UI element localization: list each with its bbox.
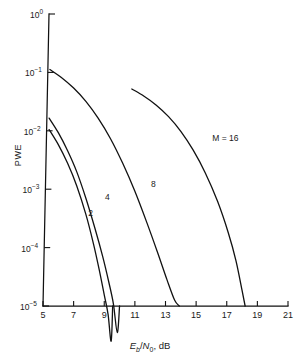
- x-tick-label: 13: [156, 310, 176, 320]
- data-curves: [49, 70, 245, 342]
- x-axis-title: Eb/N0, dB: [0, 340, 300, 353]
- curve-m-8: [50, 70, 179, 306]
- axes: [43, 14, 288, 306]
- x-axis-title-eb: Eb: [130, 340, 140, 351]
- pwe-vs-ebno-semilog-chart: [0, 0, 300, 360]
- y-tick-label: 10−4: [12, 242, 38, 254]
- x-tick-label: 7: [64, 310, 84, 320]
- chart-figure: PWE Eb/N0, dB 579111315171921 10010−110−…: [0, 0, 300, 360]
- x-tick-label: 9: [94, 310, 114, 320]
- curve-label-2: 2: [88, 208, 93, 218]
- x-axis-ticks: [43, 301, 288, 306]
- y-tick-label: 10−3: [13, 183, 39, 195]
- x-tick-label: 11: [125, 310, 145, 320]
- y-tick-label: 10−5: [11, 300, 37, 312]
- curve-label-8: 8: [151, 179, 156, 189]
- x-tick-label: 17: [217, 310, 237, 320]
- curve-m-4: [49, 118, 119, 333]
- y-axis-ticks: [43, 14, 55, 306]
- curve-m-16: [132, 89, 245, 306]
- curve-label-16: M = 16: [212, 133, 238, 143]
- y-axis-line: [43, 14, 49, 306]
- x-tick-label: 15: [186, 310, 206, 320]
- curve-label-4: 4: [105, 192, 110, 202]
- y-tick-label: 10−2: [15, 125, 41, 137]
- y-tick-label: 10−1: [16, 66, 42, 78]
- x-tick-label: 21: [278, 310, 298, 320]
- x-tick-label: 19: [247, 310, 267, 320]
- y-tick-label: 100: [17, 8, 43, 20]
